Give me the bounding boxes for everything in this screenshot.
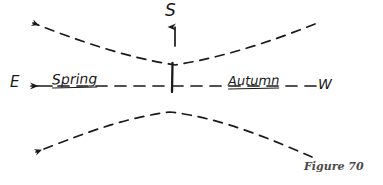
label-e: E	[10, 75, 19, 90]
label-s: S	[165, 2, 176, 19]
upper-dashed-curve	[33, 23, 315, 65]
label-spring: Spring	[52, 71, 98, 88]
label-autumn: Autumn	[228, 74, 280, 90]
figure-caption: Figure 70	[304, 160, 364, 173]
figure-70-diagram: S E Spring Autumn W Figure 70	[0, 0, 383, 185]
diagram-canvas	[0, 0, 383, 185]
label-w: W	[318, 77, 332, 91]
lower-dashed-curve	[36, 112, 312, 157]
center-tick-mark	[172, 63, 173, 92]
